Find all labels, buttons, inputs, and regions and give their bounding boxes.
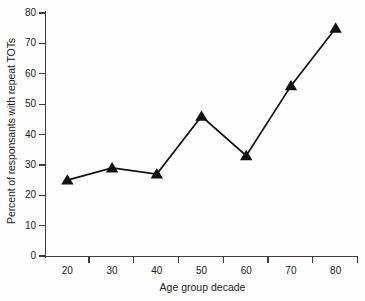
y-tick-label: 30 [12,159,36,170]
y-tick-label: 10 [12,220,36,231]
x-tick-label: 20 [52,265,82,276]
x-tick [178,257,179,263]
y-tick-label: 20 [12,189,36,200]
y-tick [39,12,45,13]
data-point-marker [195,110,207,120]
data-point-marker [61,174,73,184]
x-tick-label: 80 [321,265,351,276]
y-tick [39,225,45,226]
x-tick-label: 70 [276,265,306,276]
chart-figure: Percent of responsants with repeat TOTs … [0,0,365,301]
y-tick [39,195,45,196]
y-tick-label: 50 [12,98,36,109]
y-tick-label: 0 [12,250,36,261]
x-axis-label: Age group decade [45,281,360,293]
data-point-marker [151,168,163,178]
x-tick [312,257,313,263]
y-tick [39,43,45,44]
data-point-marker [329,22,341,32]
y-tick [39,255,45,256]
x-tick [223,257,224,263]
y-axis-line [45,11,46,258]
x-tick [88,257,89,263]
x-tick [267,257,268,263]
series-line [67,28,335,180]
x-tick [357,257,358,263]
y-tick [39,104,45,105]
y-tick-label: 60 [12,68,36,79]
y-tick-label: 40 [12,129,36,140]
y-tick [39,164,45,165]
series-markers [61,22,342,184]
y-tick [39,134,45,135]
x-tick-label: 60 [231,265,261,276]
y-tick-label: 80 [12,7,36,18]
y-tick [39,73,45,74]
x-tick-label: 40 [142,265,172,276]
data-point-marker [285,80,297,90]
y-tick-label: 70 [12,37,36,48]
x-tick [133,257,134,263]
data-point-marker [106,162,118,172]
data-point-marker [240,150,252,160]
x-tick-label: 30 [97,265,127,276]
x-tick-label: 50 [187,265,217,276]
